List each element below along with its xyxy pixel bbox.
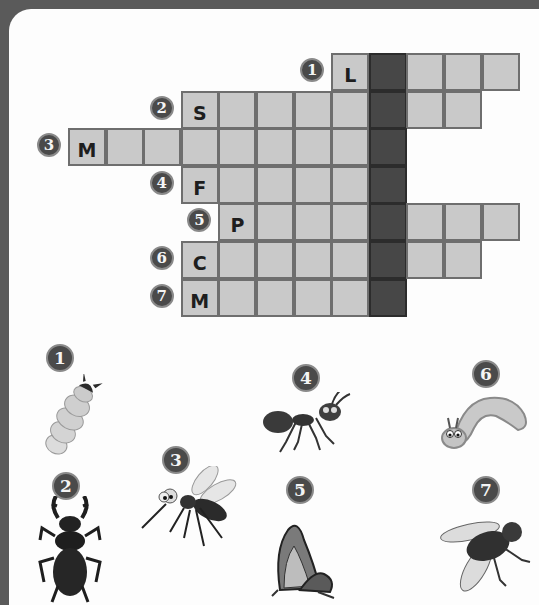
letter-cell[interactable]: F	[181, 166, 219, 204]
letter-cell[interactable]	[181, 128, 219, 166]
letter-cell[interactable]	[406, 53, 444, 91]
hidden-word-cell[interactable]	[369, 203, 407, 241]
letter-cell[interactable]	[256, 241, 294, 279]
hidden-word-cell[interactable]	[369, 128, 407, 166]
crossword-grid: 1L2S3M4F5P6C7M	[0, 0, 539, 330]
clue-3: 3	[140, 444, 240, 554]
row-number-badge: 2	[150, 96, 174, 120]
letter-cell[interactable]	[218, 241, 256, 279]
letter-cell[interactable]	[256, 279, 294, 317]
letter-cell[interactable]	[256, 91, 294, 129]
letter-cell[interactable]	[331, 203, 369, 241]
letter-cell[interactable]: M	[68, 128, 106, 166]
butterfly-icon	[270, 510, 350, 600]
row-number-badge: 3	[37, 133, 61, 157]
letter-cell[interactable]	[331, 279, 369, 317]
letter-cell[interactable]	[143, 128, 181, 166]
letter-cell[interactable]	[256, 166, 294, 204]
clue-2: 2	[30, 470, 110, 605]
mosquito-icon	[140, 466, 240, 551]
clue-number-badge: 5	[286, 476, 314, 504]
clue-number-badge: 7	[472, 476, 500, 504]
hidden-word-cell[interactable]	[369, 166, 407, 204]
row-number-badge: 4	[150, 171, 174, 195]
ant-icon	[258, 392, 358, 457]
hidden-word-cell[interactable]	[369, 91, 407, 129]
letter-cell[interactable]	[444, 53, 482, 91]
letter-cell[interactable]	[294, 279, 332, 317]
clue-number-badge: 4	[292, 364, 320, 392]
clue-7: 7	[434, 476, 534, 601]
letter-cell[interactable]	[294, 128, 332, 166]
larva-icon	[30, 374, 110, 459]
letter-cell[interactable]: S	[181, 91, 219, 129]
letter-cell[interactable]	[256, 128, 294, 166]
row-number-badge: 5	[187, 208, 211, 232]
letter-cell[interactable]	[256, 203, 294, 241]
letter-cell[interactable]	[444, 241, 482, 279]
letter-cell[interactable]	[331, 241, 369, 279]
letter-cell[interactable]: P	[218, 203, 256, 241]
hidden-word-cell[interactable]	[369, 53, 407, 91]
clue-number-badge: 1	[46, 344, 74, 372]
row-number-badge: 6	[150, 246, 174, 270]
row-number-badge: 7	[150, 284, 174, 308]
clue-6: 6	[434, 358, 534, 458]
letter-cell[interactable]	[331, 166, 369, 204]
letter-cell[interactable]	[331, 128, 369, 166]
letter-cell[interactable]	[294, 241, 332, 279]
letter-cell[interactable]	[444, 203, 482, 241]
letter-cell[interactable]: M	[181, 279, 219, 317]
letter-cell[interactable]	[406, 241, 444, 279]
letter-cell[interactable]	[406, 203, 444, 241]
letter-cell[interactable]	[218, 91, 256, 129]
caterpillar-icon	[434, 392, 534, 457]
letter-cell[interactable]	[294, 91, 332, 129]
letter-cell[interactable]	[294, 203, 332, 241]
letter-cell[interactable]	[106, 128, 144, 166]
letter-cell[interactable]	[482, 53, 520, 91]
fly-icon	[434, 510, 534, 600]
letter-cell[interactable]	[331, 91, 369, 129]
clue-5: 5	[270, 476, 350, 601]
letter-cell[interactable]	[406, 91, 444, 129]
letter-cell[interactable]	[218, 166, 256, 204]
letter-cell[interactable]	[444, 91, 482, 129]
stag-beetle-icon	[30, 496, 110, 605]
clue-number-badge: 6	[472, 360, 500, 388]
hidden-word-cell[interactable]	[369, 241, 407, 279]
hidden-word-cell[interactable]	[369, 279, 407, 317]
letter-cell[interactable]	[218, 128, 256, 166]
letter-cell[interactable]	[218, 279, 256, 317]
row-number-badge: 1	[300, 58, 324, 82]
letter-cell[interactable]	[294, 166, 332, 204]
letter-cell[interactable]: L	[331, 53, 369, 91]
clue-4: 4	[258, 362, 358, 457]
clue-1: 1	[30, 344, 110, 454]
letter-cell[interactable]	[482, 203, 520, 241]
letter-cell[interactable]: C	[181, 241, 219, 279]
